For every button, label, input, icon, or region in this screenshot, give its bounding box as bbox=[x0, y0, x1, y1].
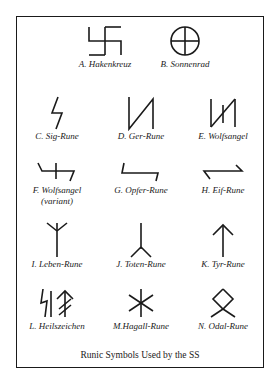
wolfsangel-glyph-icon bbox=[205, 95, 241, 131]
symbol-m: M.Hagall-Rune bbox=[103, 285, 179, 332]
symbol-label: D. Ger-Rune bbox=[103, 131, 179, 142]
symbol-label: B. Sonnenrad bbox=[155, 59, 215, 70]
symbol-label: H. Eif-Rune bbox=[185, 185, 261, 196]
symbol-label: F. Wolfsangel bbox=[19, 185, 95, 196]
sig-rune-glyph-icon bbox=[42, 95, 72, 131]
symbol-e: E. Wolfsangel bbox=[185, 95, 261, 142]
symbol-j: J. Toten-Rune bbox=[103, 221, 179, 270]
odal-rune-glyph-icon bbox=[203, 285, 243, 321]
symbol-label: K. Tyr-Rune bbox=[185, 259, 261, 270]
symbol-k: K. Tyr-Rune bbox=[185, 221, 261, 270]
symbol-label: N. Odal-Rune bbox=[185, 321, 261, 332]
heilszeichen-glyph-icon bbox=[37, 285, 77, 321]
leben-rune-glyph-icon bbox=[42, 221, 72, 259]
symbol-label: J. Toten-Rune bbox=[103, 259, 179, 270]
symbol-g: G. Opfer-Rune bbox=[103, 159, 179, 196]
symbol-label: L. Heilszeichen bbox=[19, 321, 95, 332]
symbol-l: L. Heilszeichen bbox=[19, 285, 95, 332]
symbol-label: A. Hakenkreuz bbox=[75, 59, 135, 70]
symbol-label: G. Opfer-Rune bbox=[103, 185, 179, 196]
symbol-f: F. Wolfsangel (variant) bbox=[19, 159, 95, 207]
symbol-d: D. Ger-Rune bbox=[103, 95, 179, 142]
symbol-label: I. Leben-Rune bbox=[19, 259, 95, 270]
opfer-rune-glyph-icon bbox=[118, 159, 164, 185]
sonnenrad-glyph-icon bbox=[165, 23, 205, 59]
symbol-b: B. Sonnenrad bbox=[155, 23, 215, 70]
tyr-rune-glyph-icon bbox=[208, 221, 238, 259]
toten-rune-glyph-icon bbox=[126, 221, 156, 259]
symbol-n: N. Odal-Rune bbox=[185, 285, 261, 332]
chart-caption: Runic Symbols Used by the SS bbox=[17, 350, 263, 360]
symbol-label: M.Hagall-Rune bbox=[103, 321, 179, 332]
symbol-c: C. Sig-Rune bbox=[19, 95, 95, 142]
symbol-i: I. Leben-Rune bbox=[19, 221, 95, 270]
symbol-label: C. Sig-Rune bbox=[19, 131, 95, 142]
hakenkreuz-glyph-icon bbox=[85, 23, 125, 59]
symbol-chart-frame: A. Hakenkreuz B. Sonnenrad C. Sig-Rune D… bbox=[16, 16, 264, 368]
symbol-h: H. Eif-Rune bbox=[185, 159, 261, 196]
hagall-rune-glyph-icon bbox=[123, 285, 159, 321]
symbol-sublabel: (variant) bbox=[19, 196, 95, 207]
symbol-a: A. Hakenkreuz bbox=[75, 23, 135, 70]
symbol-label: E. Wolfsangel bbox=[185, 131, 261, 142]
ger-rune-glyph-icon bbox=[123, 95, 159, 131]
eif-rune-glyph-icon bbox=[200, 159, 246, 185]
wolfsangel-variant-glyph-icon bbox=[34, 159, 80, 185]
